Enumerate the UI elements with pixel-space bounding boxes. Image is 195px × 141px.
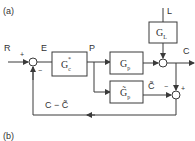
panel-a-label: (a): [3, 6, 14, 16]
summing-junction-3: [172, 91, 180, 99]
signal-e-label: E: [41, 43, 47, 53]
summing-junction-2: [159, 59, 167, 67]
signal-l-label: L: [167, 6, 172, 16]
signal-c-label: C: [183, 46, 190, 56]
sum3-minus-sign: −: [164, 83, 168, 90]
summing-junction-1: [29, 58, 37, 66]
sum3-plus-sign: +: [181, 85, 185, 92]
signal-p-label: P: [89, 43, 95, 53]
signal-c-tilde-label: C̃: [148, 81, 155, 91]
imc-block-diagram: (a) (b) R + − E Gc* P Gp L GL C G̃p C̃ −…: [0, 0, 195, 141]
sum1-plus-sign: +: [20, 51, 24, 58]
panel-b-label: (b): [3, 131, 14, 141]
sum1-minus-sign: −: [38, 67, 42, 74]
signal-r-label: R: [4, 43, 11, 53]
feedback-signal-label: C − C̃: [45, 100, 69, 110]
